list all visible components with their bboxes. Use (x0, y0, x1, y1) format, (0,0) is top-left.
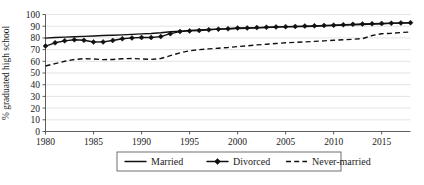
chart-figure: 0102030405060708090100 19801985199019952… (0, 0, 424, 185)
data-point-marker (379, 21, 384, 26)
data-point-marker (81, 38, 86, 43)
data-point-marker (360, 21, 365, 26)
data-point-marker (322, 23, 327, 28)
x-tick-label: 1980 (36, 137, 55, 147)
legend-label: Never-married (312, 156, 371, 167)
y-tick-label: 40 (31, 80, 41, 90)
x-axis-ticks: 19801985199019952000200520102015 (36, 132, 391, 147)
data-point-marker (216, 27, 221, 32)
data-point-marker (331, 23, 336, 28)
data-point-marker (283, 24, 288, 29)
data-point-marker (149, 35, 154, 40)
data-point-marker (226, 26, 231, 31)
x-tick-label: 2015 (372, 137, 391, 147)
y-axis-ticks: 0102030405060708090100 (26, 10, 46, 137)
data-point-marker (187, 28, 192, 33)
data-point-marker (139, 35, 144, 40)
y-tick-label: 50 (31, 68, 41, 78)
data-point-marker (302, 24, 307, 29)
y-tick-label: 30 (31, 92, 41, 102)
data-point-marker (293, 24, 298, 29)
data-point-marker (264, 25, 269, 30)
data-point-marker (101, 39, 106, 44)
data-point-marker (110, 38, 115, 43)
data-point-marker (398, 20, 403, 25)
chart-legend: MarriedDivorcedNever-married (117, 152, 371, 171)
line-chart: 0102030405060708090100 19801985199019952… (0, 0, 424, 185)
data-point-marker (120, 36, 125, 41)
y-tick-label: 0 (35, 127, 40, 137)
y-tick-label: 70 (31, 45, 41, 55)
data-point-marker (43, 44, 48, 49)
x-tick-label: 1995 (180, 137, 199, 147)
data-point-marker (408, 20, 413, 25)
data-point-marker (389, 21, 394, 26)
data-point-marker (91, 39, 96, 44)
data-point-marker (274, 24, 279, 29)
data-point-marker (206, 27, 211, 32)
data-point-marker (158, 34, 163, 39)
data-series (43, 20, 413, 66)
y-tick-label: 80 (31, 33, 41, 43)
y-axis-label: % graduated high school (1, 26, 11, 121)
x-tick-label: 1985 (84, 137, 103, 147)
legend-label: Married (151, 156, 183, 167)
y-tick-label: 20 (31, 104, 41, 114)
data-point-marker (53, 40, 58, 45)
data-point-marker (129, 35, 134, 40)
x-tick-label: 2005 (276, 137, 295, 147)
x-tick-label: 2010 (324, 137, 343, 147)
data-point-marker (312, 23, 317, 28)
data-point-marker (197, 28, 202, 33)
data-point-marker (62, 38, 67, 43)
data-point-marker (370, 21, 375, 26)
legend-label: Divorced (233, 156, 270, 167)
y-tick-label: 60 (31, 57, 41, 67)
y-tick-label: 100 (26, 10, 41, 20)
series-line-never-married (46, 32, 411, 66)
y-tick-label: 10 (31, 115, 41, 125)
y-tick-label: 90 (31, 22, 41, 32)
x-tick-label: 1990 (132, 137, 151, 147)
data-point-marker (177, 29, 182, 34)
x-tick-label: 2000 (228, 137, 247, 147)
